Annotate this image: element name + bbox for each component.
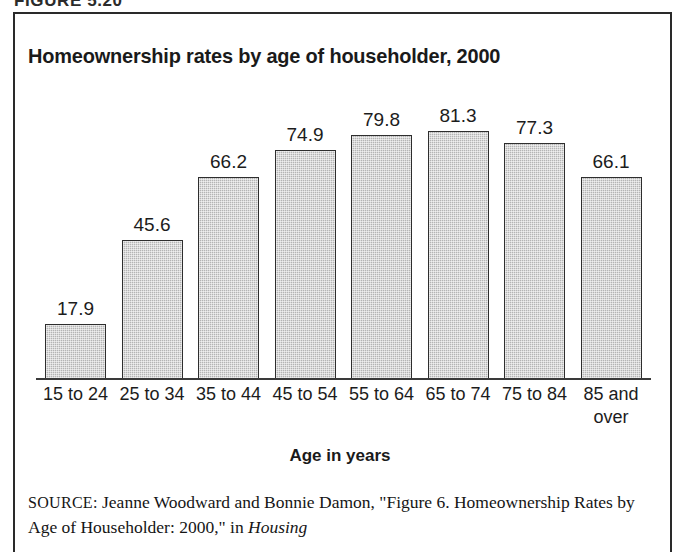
bar-value-label: 77.3 [504, 117, 565, 139]
source-label: SOURCE: [28, 494, 98, 511]
bar [122, 240, 183, 379]
bar-group: 81.3 [428, 104, 489, 379]
bar-chart-plot-area: 17.945.666.274.979.881.377.366.1 [36, 104, 648, 379]
x-axis-tick-label: 15 to 24 [37, 383, 115, 406]
bar-value-label: 17.9 [45, 298, 106, 320]
bar-group: 66.1 [581, 104, 642, 379]
source-publication-title: Housing [248, 517, 307, 537]
x-axis-tick-label: 25 to 34 [113, 383, 191, 406]
chart-title: Homeownership rates by age of householde… [28, 44, 500, 68]
x-axis-baseline [36, 378, 651, 380]
bar-group: 79.8 [351, 104, 412, 379]
bar-group: 66.2 [198, 104, 259, 379]
source-text: Jeanne Woodward and Bonnie Damon, "Figur… [28, 492, 635, 537]
x-axis-tick-label: 35 to 44 [190, 383, 268, 406]
bar-value-label: 79.8 [351, 109, 412, 131]
source-note: SOURCE: Jeanne Woodward and Bonnie Damon… [28, 490, 656, 539]
bar-value-label: 66.1 [581, 151, 642, 173]
bar [351, 135, 412, 379]
x-axis-category-labels: 15 to 2425 to 3435 to 4445 to 5455 to 64… [36, 383, 651, 439]
bar [198, 177, 259, 379]
x-axis-tick-label: 55 to 64 [343, 383, 421, 406]
bar-value-label: 81.3 [428, 105, 489, 127]
x-axis-tick-label: 75 to 84 [496, 383, 574, 406]
x-axis-title: Age in years [0, 446, 684, 466]
x-axis-tick-label: 65 to 74 [419, 383, 497, 406]
x-axis-tick-label: 45 to 54 [266, 383, 344, 406]
bar [428, 131, 489, 379]
bar-value-label: 45.6 [122, 214, 183, 236]
bar-value-label: 66.2 [198, 151, 259, 173]
bar-group: 45.6 [122, 104, 183, 379]
figure-caption: FIGURE 5.20 [14, 0, 123, 11]
bar [581, 177, 642, 379]
bar [275, 150, 336, 379]
bar-group: 74.9 [275, 104, 336, 379]
bar [504, 143, 565, 379]
bar [45, 324, 106, 379]
bar-group: 77.3 [504, 104, 565, 379]
bar-value-label: 74.9 [275, 124, 336, 146]
x-axis-tick-label: 85 and over [572, 383, 650, 429]
bar-group: 17.9 [45, 104, 106, 379]
